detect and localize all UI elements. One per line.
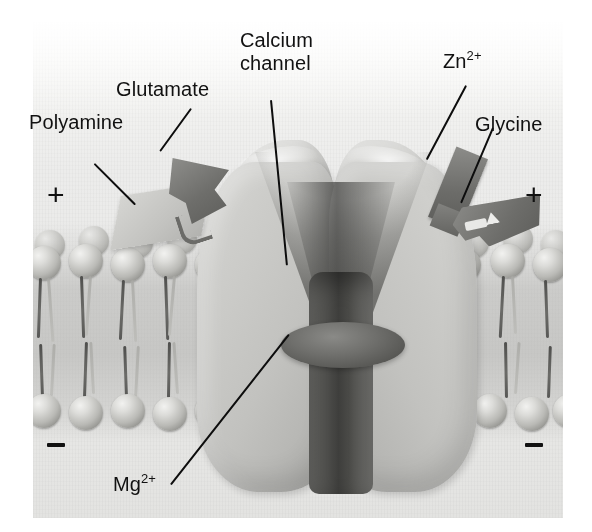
label-calcium-channel-line2: channel: [240, 52, 313, 75]
label-polyamine: Polyamine: [29, 111, 123, 134]
charge-plus-left: +: [47, 180, 65, 210]
magnesium-block-disc: [281, 322, 405, 368]
channel-pore: [309, 272, 373, 494]
lipid-head-icon: [69, 244, 103, 278]
lipid-head-icon: [111, 394, 145, 428]
charge-minus-right: [525, 443, 543, 447]
lipid-head-icon: [153, 397, 187, 431]
label-zinc-charge: 2+: [467, 48, 482, 63]
label-glycine: Glycine: [475, 113, 542, 136]
lipid-head-icon: [153, 244, 187, 278]
charge-minus-left: [47, 443, 65, 447]
lipid-head-icon: [111, 248, 145, 282]
label-zinc-symbol: Zn: [443, 50, 467, 72]
label-calcium-channel: Calcium channel: [240, 29, 313, 75]
label-magnesium-symbol: Mg: [113, 473, 141, 495]
lipid-head-icon: [69, 396, 103, 430]
lipid-head-icon: [491, 244, 525, 278]
label-calcium-channel-line1: Calcium: [240, 29, 313, 52]
label-zinc: Zn2+: [443, 50, 482, 73]
lipid-head-icon: [515, 397, 549, 431]
diagram-panel: + +: [33, 22, 563, 518]
figure-root: + + Polyamine Glutamate Calcium channel …: [0, 0, 592, 532]
label-glutamate: Glutamate: [116, 78, 209, 101]
label-magnesium-charge: 2+: [141, 471, 156, 486]
lipid-head-icon: [473, 394, 507, 428]
lipid-head-icon: [533, 248, 563, 282]
label-magnesium: Mg2+: [113, 473, 156, 496]
charge-plus-right: +: [525, 180, 543, 210]
